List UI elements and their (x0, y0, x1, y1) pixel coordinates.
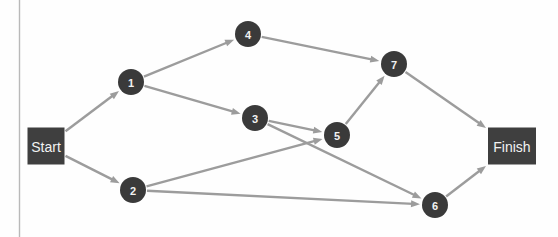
arrow-head-icon (313, 138, 323, 145)
arrow-head-icon (224, 40, 234, 47)
edge-line (446, 170, 481, 196)
node-finish[interactable]: Finish (488, 128, 536, 165)
arrow-head-icon (370, 56, 380, 63)
node-label: 7 (391, 59, 397, 71)
edge-line (144, 86, 234, 112)
arrow-head-icon (411, 200, 420, 207)
node-label: 3 (252, 113, 258, 125)
node-label: Start (31, 139, 61, 155)
node-label: 6 (432, 200, 438, 212)
node-label: Finish (493, 139, 530, 155)
node-label: 5 (334, 130, 340, 142)
edge-n6-to-finish (446, 166, 486, 197)
node-n2[interactable]: 2 (120, 177, 146, 203)
edge-line (147, 191, 413, 204)
diagram-canvas: Start1234567Finish (0, 0, 558, 237)
edge-line (66, 95, 114, 131)
edge-n7-to-finish (406, 72, 487, 128)
edge-line (346, 81, 381, 124)
node-start[interactable]: Start (28, 128, 65, 165)
node-n1[interactable]: 1 (118, 69, 144, 95)
edge-line (66, 156, 114, 180)
edge-n2-to-n5 (147, 138, 323, 186)
node-layer: Start1234567Finish (28, 21, 537, 218)
node-n6[interactable]: 6 (422, 192, 448, 218)
node-n4[interactable]: 4 (235, 21, 261, 47)
edge-line (144, 42, 228, 76)
node-label: 1 (128, 77, 134, 89)
edge-line (262, 37, 373, 60)
node-n5[interactable]: 5 (324, 122, 350, 148)
edge-n4-to-n7 (262, 37, 380, 63)
edge-start-to-n2 (66, 156, 120, 183)
edge-start-to-n1 (66, 91, 120, 131)
arrow-head-icon (110, 176, 120, 183)
edge-n1-to-n3 (144, 86, 240, 115)
edge-n2-to-n6 (147, 191, 420, 208)
graph-svg: Start1234567Finish (0, 0, 558, 237)
edge-line (147, 141, 316, 187)
node-label: 2 (130, 185, 136, 197)
arrow-head-icon (231, 108, 241, 115)
node-n7[interactable]: 7 (381, 51, 407, 77)
node-n3[interactable]: 3 (242, 105, 268, 131)
edge-n1-to-n4 (144, 40, 234, 77)
arrow-head-icon (313, 127, 323, 134)
edge-line (406, 72, 481, 124)
arrow-head-icon (412, 191, 422, 198)
node-label: 4 (245, 29, 252, 41)
edge-n5-to-n7 (346, 76, 385, 124)
